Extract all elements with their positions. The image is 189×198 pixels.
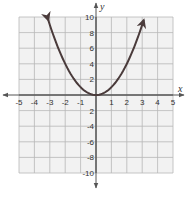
x-tick-label: 1 (109, 98, 114, 107)
y-tick-label: 4 (90, 60, 95, 69)
x-tick-label: 5 (171, 98, 176, 107)
coordinate-graph: -5-4-3-2-112345 1086422-4-6-8-10 x y (0, 0, 189, 198)
y-tick-label: 2 (90, 107, 95, 116)
y-tick-label: -8 (87, 153, 95, 162)
x-tick-label: -5 (15, 98, 23, 107)
y-tick-label: 2 (90, 75, 95, 84)
x-tick-label: -2 (62, 98, 70, 107)
x-tick-label: 3 (140, 98, 145, 107)
y-tick-label: 8 (90, 29, 95, 38)
x-axis-label: x (177, 83, 183, 94)
x-tick-label: -1 (77, 98, 85, 107)
y-axis-label: y (99, 1, 105, 12)
x-tick-label: -4 (31, 98, 39, 107)
y-tick-label: 6 (90, 44, 95, 53)
x-tick-label: 2 (125, 98, 130, 107)
x-tick-label: -3 (46, 98, 54, 107)
y-tick-label: -4 (87, 122, 95, 131)
x-tick-label: 4 (155, 98, 160, 107)
y-tick-label: -10 (82, 169, 94, 178)
y-tick-label: 10 (85, 13, 94, 22)
y-tick-label: -6 (87, 138, 95, 147)
